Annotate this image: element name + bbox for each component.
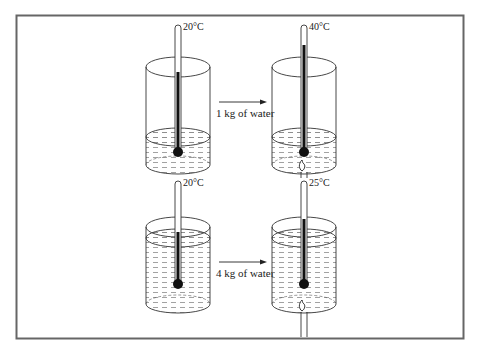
arrow-row1: 1 kg of water bbox=[216, 100, 275, 120]
beaker-row2-after: 25°C bbox=[272, 177, 336, 337]
temperature-label: 20°C bbox=[183, 177, 204, 188]
beaker-row1-after: 40°C bbox=[272, 21, 336, 178]
temperature-label: 25°C bbox=[309, 177, 330, 188]
arrow-row2: 4 kg of water bbox=[216, 260, 275, 280]
beaker-row2-before: 20°C bbox=[146, 177, 210, 313]
temperature-label: 20°C bbox=[183, 21, 204, 32]
diagram-canvas: 20°C 1 kg of water 40°C bbox=[0, 0, 479, 351]
beaker-row1-before: 20°C bbox=[146, 21, 210, 174]
diagram-frame bbox=[17, 16, 464, 339]
arrow-label: 1 kg of water bbox=[216, 107, 275, 119]
temperature-label: 40°C bbox=[309, 21, 330, 32]
arrow-label: 4 kg of water bbox=[216, 267, 275, 279]
